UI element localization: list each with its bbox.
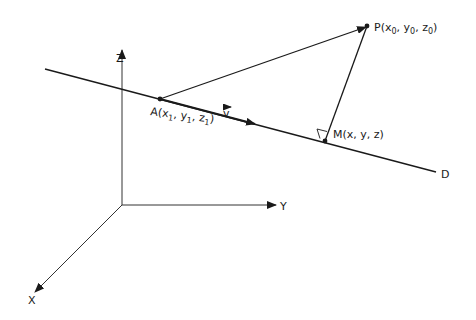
point-p-dot: [365, 24, 370, 29]
x-axis-label: X: [28, 294, 36, 307]
line-d: D: [45, 69, 449, 181]
point-p-label: P(x0, y0, z0): [374, 21, 437, 36]
point-m-dot: [323, 139, 328, 144]
point-a-label: A(x1, y1, z1): [149, 105, 215, 128]
y-axis-label: Y: [279, 200, 287, 213]
right-angle-marker: [317, 129, 327, 139]
coordinate-axes: Z Y X: [28, 50, 287, 307]
z-axis-label: Z: [116, 52, 124, 65]
diagram-figure: Z Y X D v P(x0, y0, z0) A(x1, y1, z1) M(…: [0, 0, 476, 320]
vector-v-label: v: [223, 107, 230, 120]
perpendicular-pm: [325, 26, 367, 141]
vector-ap-arrow: [160, 27, 366, 99]
point-m-label: M(x, y, z): [333, 128, 384, 141]
line-d-label: D: [441, 168, 449, 181]
x-axis: [35, 205, 122, 292]
point-a-dot: [158, 97, 163, 102]
